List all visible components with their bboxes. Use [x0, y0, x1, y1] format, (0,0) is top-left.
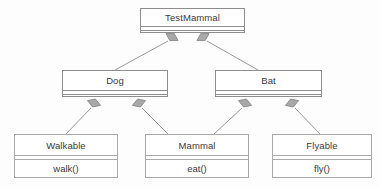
relationship-line — [115, 41, 168, 70]
class-name-walkable: Walkable — [15, 135, 117, 155]
relationship-dog-mammal[interactable] — [131, 97, 168, 134]
uml-class-testmammal[interactable]: TestMammal — [140, 8, 245, 33]
class-name-bat: Bat — [216, 71, 321, 90]
class-name-testmammal: TestMammal — [141, 9, 244, 26]
class-name-flyable: Flyable — [273, 135, 371, 155]
class-name-mammal: Mammal — [146, 135, 248, 155]
relationship-testmammal-bat[interactable] — [195, 30, 258, 70]
aggregation-diamond — [86, 97, 102, 110]
uml-class-walkable[interactable]: Walkablewalk() — [14, 134, 118, 178]
relationship-line — [142, 108, 168, 134]
uml-class-flyable[interactable]: Flyablefly() — [272, 134, 372, 178]
relationship-bat-mammal[interactable] — [214, 97, 253, 134]
relationship-testmammal-dog[interactable] — [115, 30, 180, 70]
relationship-dog-walkable[interactable] — [66, 97, 102, 134]
class-member-flyable-0: fly() — [273, 160, 371, 177]
class-empty-compartment-dog — [63, 95, 167, 96]
relationship-line — [66, 108, 91, 134]
uml-diagram-canvas: TestMammalDogBatWalkablewalk()Mammaleat(… — [0, 0, 380, 188]
relationship-line — [207, 41, 258, 70]
relationship-line — [295, 108, 320, 134]
class-empty-compartment-bat — [216, 95, 321, 96]
relationship-line — [214, 108, 242, 134]
aggregation-diamond — [284, 97, 300, 110]
relationship-bat-flyable[interactable] — [284, 97, 320, 134]
uml-class-bat[interactable]: Bat — [215, 70, 322, 97]
aggregation-diamond — [131, 97, 147, 110]
uml-class-dog[interactable]: Dog — [62, 70, 168, 97]
aggregation-diamond — [237, 97, 253, 110]
class-member-walkable-0: walk() — [15, 160, 117, 177]
class-member-mammal-0: eat() — [146, 160, 248, 177]
class-empty-compartment-testmammal — [141, 31, 244, 32]
class-name-dog: Dog — [63, 71, 167, 90]
uml-class-mammal[interactable]: Mammaleat() — [145, 134, 249, 178]
